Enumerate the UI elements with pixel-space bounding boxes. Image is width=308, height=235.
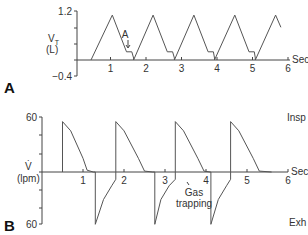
b-exh-label: Exh xyxy=(289,217,306,228)
x-tick-label: 4 xyxy=(203,175,209,186)
a-x-unit: Sec xyxy=(292,54,308,65)
a-y-top-label: 1.2 xyxy=(58,6,72,17)
a-tidal-volume-line xyxy=(91,15,281,60)
panel-a: 123456 1.2 −0.4 VT (L) Sec A A xyxy=(4,6,308,96)
b-flow-line xyxy=(63,122,272,225)
panel-a-letter: A xyxy=(4,79,15,96)
x-tick-label: 5 xyxy=(244,175,250,186)
b-x-unit: Sec xyxy=(291,166,308,177)
x-tick-label: 6 xyxy=(285,63,291,74)
x-tick-label: 2 xyxy=(121,175,127,186)
b-y-top-label: 60 xyxy=(26,112,38,123)
b-y-label: V̇ xyxy=(25,160,32,172)
x-tick-label: 1 xyxy=(80,175,86,186)
x-tick-label: 3 xyxy=(162,175,168,186)
figure: 123456 1.2 −0.4 VT (L) Sec A A 123456 60… xyxy=(0,0,308,235)
a-y-bottom-label: −0.4 xyxy=(52,71,72,82)
a-y-unit: (L) xyxy=(46,44,58,55)
b-gas-trapping-label-2: trapping xyxy=(176,198,212,209)
x-tick-label: 1 xyxy=(108,63,114,74)
x-tick-label: 5 xyxy=(250,63,256,74)
b-y-unit: (lpm) xyxy=(17,173,40,184)
x-tick-label: 3 xyxy=(179,63,185,74)
panel-b-letter: B xyxy=(4,217,15,234)
gas-trapping-pointer-icon xyxy=(187,182,189,185)
x-tick-label: 4 xyxy=(214,63,220,74)
a-annotation-label: A xyxy=(122,29,129,40)
x-tick-label: 2 xyxy=(143,63,149,74)
b-gas-trapping-label-1: Gas xyxy=(185,187,203,198)
panel-b: 123456 60 60 V̇ (lpm) Sec Insp Exh Gas t… xyxy=(4,112,308,234)
b-insp-label: Insp xyxy=(287,112,306,123)
b-y-bottom-label: 60 xyxy=(26,219,38,230)
